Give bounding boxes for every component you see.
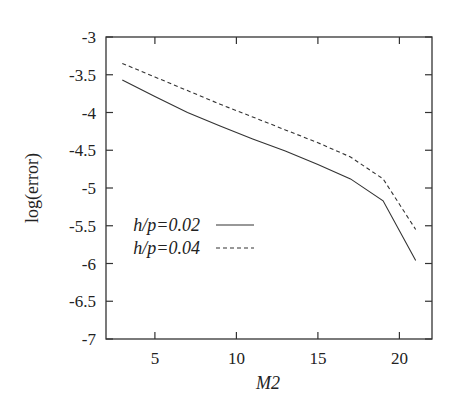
y-tick-label: -3 [82,28,96,47]
y-axis-label: log(error) [22,153,43,223]
x-tick-labels: 5101520 [151,349,408,368]
x-axis-label: M2 [255,373,280,393]
series-line-2 [122,63,415,229]
legend: h/p=0.02h/p=0.04 [133,215,254,258]
legend-label: h/p=0.02 [133,215,200,235]
plot-frame [106,37,432,339]
y-tick-label: -5.5 [69,217,96,236]
y-tick-label: -3.5 [69,66,96,85]
axis-ticks [106,37,432,339]
y-tick-label: -6 [82,255,96,274]
plot-border [106,37,432,339]
x-tick-label: 15 [309,349,326,368]
y-tick-label: -4 [82,104,97,123]
y-tick-label: -7 [82,330,97,349]
legend-label: h/p=0.04 [133,238,200,258]
x-tick-label: 5 [151,349,160,368]
line-chart: 5101520 -3-3.5-4-4.5-5-5.5-6-6.5-7 h/p=0… [0,0,456,410]
y-tick-labels: -3-3.5-4-4.5-5-5.5-6-6.5-7 [69,28,96,349]
y-tick-label: -6.5 [69,292,96,311]
y-tick-label: -4.5 [69,141,96,160]
x-tick-label: 20 [391,349,408,368]
y-tick-label: -5 [82,179,96,198]
x-tick-label: 10 [228,349,245,368]
